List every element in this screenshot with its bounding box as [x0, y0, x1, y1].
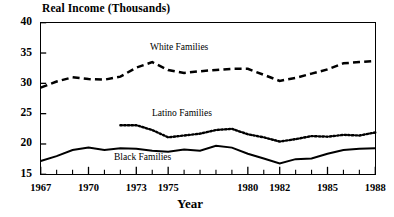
- x-tick-label: 1985: [308, 182, 348, 193]
- series-label-black-families: Black Families: [114, 152, 171, 162]
- y-tick-label: 20: [2, 136, 32, 148]
- x-tick-label: 1982: [260, 182, 300, 193]
- chart-title: Real Income (Thousands): [42, 2, 170, 14]
- series-label-latino-families: Latino Families: [152, 108, 212, 118]
- x-tick-label: 1988: [355, 182, 394, 193]
- y-tick-label: 35: [2, 46, 32, 58]
- x-tick-label: 1975: [148, 182, 188, 193]
- y-tick-label: 40: [2, 15, 32, 27]
- series-label-white-families: White Families: [150, 42, 208, 52]
- x-tick-label: 1970: [69, 182, 109, 193]
- chart-container: Real Income (Thousands) 403530252015 196…: [0, 0, 394, 217]
- y-tick-label: 25: [2, 106, 32, 118]
- y-tick-label: 30: [2, 76, 32, 88]
- x-tick-label: 1967: [21, 182, 61, 193]
- y-tick-label: 15: [2, 167, 32, 179]
- x-axis-title: Year: [177, 196, 203, 212]
